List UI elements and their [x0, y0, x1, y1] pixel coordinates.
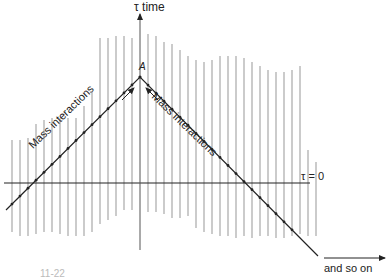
interaction-dot	[35, 179, 38, 182]
figure-caption-fragment: 11-22	[40, 268, 65, 278]
interaction-dot	[83, 131, 86, 134]
interaction-dot	[291, 228, 294, 231]
interaction-dot	[59, 155, 62, 158]
interaction-dot	[91, 123, 94, 126]
interaction-dot	[27, 187, 30, 190]
interaction-dot	[267, 204, 270, 207]
interaction-dot	[227, 164, 230, 167]
interaction-dot	[123, 91, 126, 94]
interaction-dot	[115, 99, 118, 102]
interaction-dot	[275, 212, 278, 215]
interaction-dot	[107, 107, 110, 110]
interaction-dot	[11, 203, 14, 206]
interaction-dot	[99, 115, 102, 118]
continuation-label: and so on	[324, 262, 372, 274]
interaction-dot	[51, 163, 54, 166]
interaction-dot	[219, 156, 222, 159]
time-axis-label: τ time	[134, 0, 165, 14]
apex-label: A	[139, 61, 146, 72]
interaction-dot	[19, 195, 22, 198]
apex-point	[138, 75, 141, 78]
interaction-dot	[235, 172, 238, 175]
interaction-dot	[147, 84, 150, 87]
interaction-dot	[259, 196, 262, 199]
interaction-dot	[75, 139, 78, 142]
interaction-dot	[243, 180, 246, 183]
interaction-dot	[67, 147, 70, 150]
interaction-dot	[283, 220, 286, 223]
tau-zero-label: τ = 0	[301, 170, 324, 182]
interaction-dot	[43, 171, 46, 174]
interaction-dot	[131, 84, 134, 87]
interaction-dot	[251, 188, 254, 191]
